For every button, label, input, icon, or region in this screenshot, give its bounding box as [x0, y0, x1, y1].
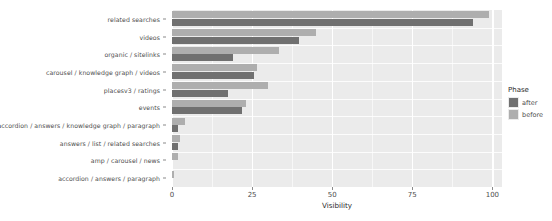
bar-before: [172, 153, 178, 160]
bar-before: [172, 47, 279, 54]
bar-group: [172, 100, 502, 115]
y-axis-labels: related searchesvideosorganic / sitelink…: [0, 10, 168, 187]
legend-key-icon: [508, 109, 519, 120]
bar-after: [172, 72, 254, 79]
x-axis-tick-mark: [172, 187, 173, 190]
visibility-bar-chart: related searchesvideosorganic / sitelink…: [0, 0, 552, 221]
bar-before: [172, 171, 174, 178]
y-axis-tick-mark: [163, 142, 166, 143]
bar-after: [172, 107, 242, 114]
legend-title: Phase: [508, 86, 552, 94]
y-axis-tick-mark: [163, 54, 166, 55]
x-axis-tick-label: 25: [248, 191, 257, 199]
bar-group: [172, 82, 502, 97]
bar-after: [172, 54, 233, 61]
bar-group: [172, 64, 502, 79]
x-axis-tick-label: 50: [328, 191, 337, 199]
bar-group: [172, 47, 502, 62]
y-axis-tick-mark: [163, 107, 166, 108]
bar-before: [172, 29, 316, 36]
bar-before: [172, 118, 185, 125]
bar-after: [172, 90, 228, 97]
y-axis-tick-label: accordion / answers / paragraph: [58, 175, 160, 182]
y-axis-tick-label: accordion / answers / knowledge graph / …: [0, 122, 160, 129]
legend-key-icon: [508, 97, 519, 108]
legend-item[interactable]: after: [508, 97, 552, 108]
x-axis-tick-mark: [252, 187, 253, 190]
bar-before: [172, 135, 180, 142]
bar-group: [172, 153, 502, 168]
legend-item[interactable]: before: [508, 109, 552, 120]
bar-group: [172, 118, 502, 133]
y-axis-tick-label: related searches: [108, 15, 160, 22]
x-axis-tick-label: 0: [170, 191, 174, 199]
bar-before: [172, 64, 257, 71]
bar-before: [172, 100, 246, 107]
plot-panel: [172, 10, 502, 187]
bar-after: [172, 125, 178, 132]
legend-label: before: [522, 111, 543, 119]
legend-color-swatch: [509, 98, 518, 107]
bar-group: [172, 29, 502, 44]
y-axis-tick-label: answers / list / related searches: [60, 139, 160, 146]
y-axis-tick-mark: [163, 89, 166, 90]
x-axis-tick-label: 100: [486, 191, 499, 199]
bar-group: [172, 171, 502, 186]
bar-after: [172, 37, 299, 44]
y-axis-tick-label: events: [139, 104, 160, 111]
bar-after: [172, 19, 473, 26]
x-axis-title: Visibility: [172, 201, 502, 210]
y-axis-tick-label: carousel / knowledge graph / videos: [46, 68, 160, 75]
legend-label: after: [522, 99, 537, 107]
y-axis-tick-mark: [163, 178, 166, 179]
bar-group: [172, 135, 502, 150]
bar-group: [172, 11, 502, 26]
x-axis-tick-mark: [332, 187, 333, 190]
bar-after: [172, 143, 178, 150]
y-axis-tick-label: amp / carousel / news: [91, 157, 160, 164]
bar-before: [172, 11, 489, 18]
legend-color-swatch: [509, 110, 518, 119]
y-axis-tick-mark: [163, 125, 166, 126]
x-axis-tick-mark: [412, 187, 413, 190]
y-axis-tick-label: organic / sitelinks: [104, 51, 160, 58]
x-axis-tick-label: 75: [408, 191, 417, 199]
y-axis-tick-label: placesv3 / ratings: [104, 86, 160, 93]
y-axis-tick-mark: [163, 18, 166, 19]
bar-before: [172, 82, 268, 89]
y-axis-tick-mark: [163, 160, 166, 161]
y-axis-tick-label: videos: [140, 33, 161, 40]
legend: Phase afterbefore: [508, 86, 552, 121]
x-axis-tick-mark: [492, 187, 493, 190]
y-axis-tick-mark: [163, 36, 166, 37]
y-axis-tick-mark: [163, 71, 166, 72]
